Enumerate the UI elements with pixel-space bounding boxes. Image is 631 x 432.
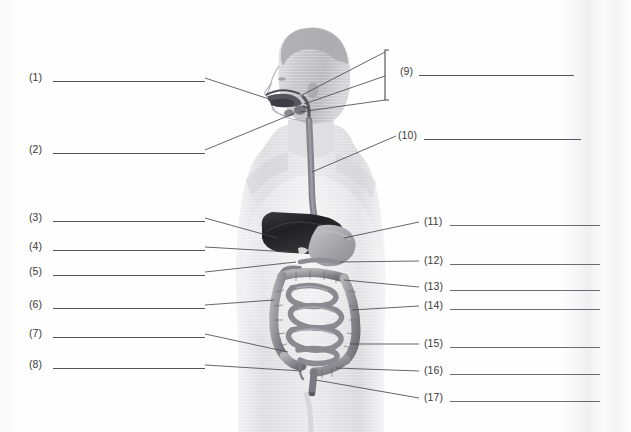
answer-line-3[interactable] xyxy=(53,221,205,222)
answer-line-6[interactable] xyxy=(53,308,205,309)
answer-line-11[interactable] xyxy=(450,225,600,226)
label-number-3: (3) xyxy=(29,212,42,223)
rectum xyxy=(312,372,314,392)
worksheet-page: (1) (2) (3) (4) (5) (6) (7) (8) (9) (10)… xyxy=(0,0,631,432)
label-number-14: (14) xyxy=(424,300,443,311)
answer-line-9[interactable] xyxy=(419,75,574,76)
head-profile xyxy=(265,28,351,125)
label-number-5: (5) xyxy=(29,266,42,277)
answer-line-17[interactable] xyxy=(450,401,600,402)
answer-line-7[interactable] xyxy=(53,337,205,338)
label-number-17: (17) xyxy=(424,392,443,403)
answer-line-12[interactable] xyxy=(450,264,600,265)
answer-line-1[interactable] xyxy=(53,81,205,82)
label-number-4: (4) xyxy=(29,241,42,252)
anus xyxy=(309,392,315,396)
answer-line-2[interactable] xyxy=(53,153,205,154)
answer-line-4[interactable] xyxy=(53,250,205,251)
answer-line-8[interactable] xyxy=(53,368,205,369)
label-number-13: (13) xyxy=(424,281,443,292)
label-number-11: (11) xyxy=(424,216,442,227)
answer-line-5[interactable] xyxy=(53,275,205,276)
answer-line-14[interactable] xyxy=(450,309,600,310)
label-number-2: (2) xyxy=(29,144,42,155)
label-number-16: (16) xyxy=(424,365,443,376)
label-number-8: (8) xyxy=(29,359,42,370)
label-number-6: (6) xyxy=(29,299,42,310)
answer-line-15[interactable] xyxy=(450,347,600,348)
answer-line-13[interactable] xyxy=(450,290,600,291)
answer-line-16[interactable] xyxy=(450,374,600,375)
pancreas xyxy=(300,260,338,262)
label-number-9: (9) xyxy=(400,66,413,77)
label-number-1: (1) xyxy=(29,72,42,83)
label-number-12: (12) xyxy=(424,255,443,266)
label-number-7: (7) xyxy=(29,328,42,339)
label-number-15: (15) xyxy=(424,338,443,349)
label-number-10: (10) xyxy=(398,130,417,141)
answer-line-10[interactable] xyxy=(424,139,581,140)
